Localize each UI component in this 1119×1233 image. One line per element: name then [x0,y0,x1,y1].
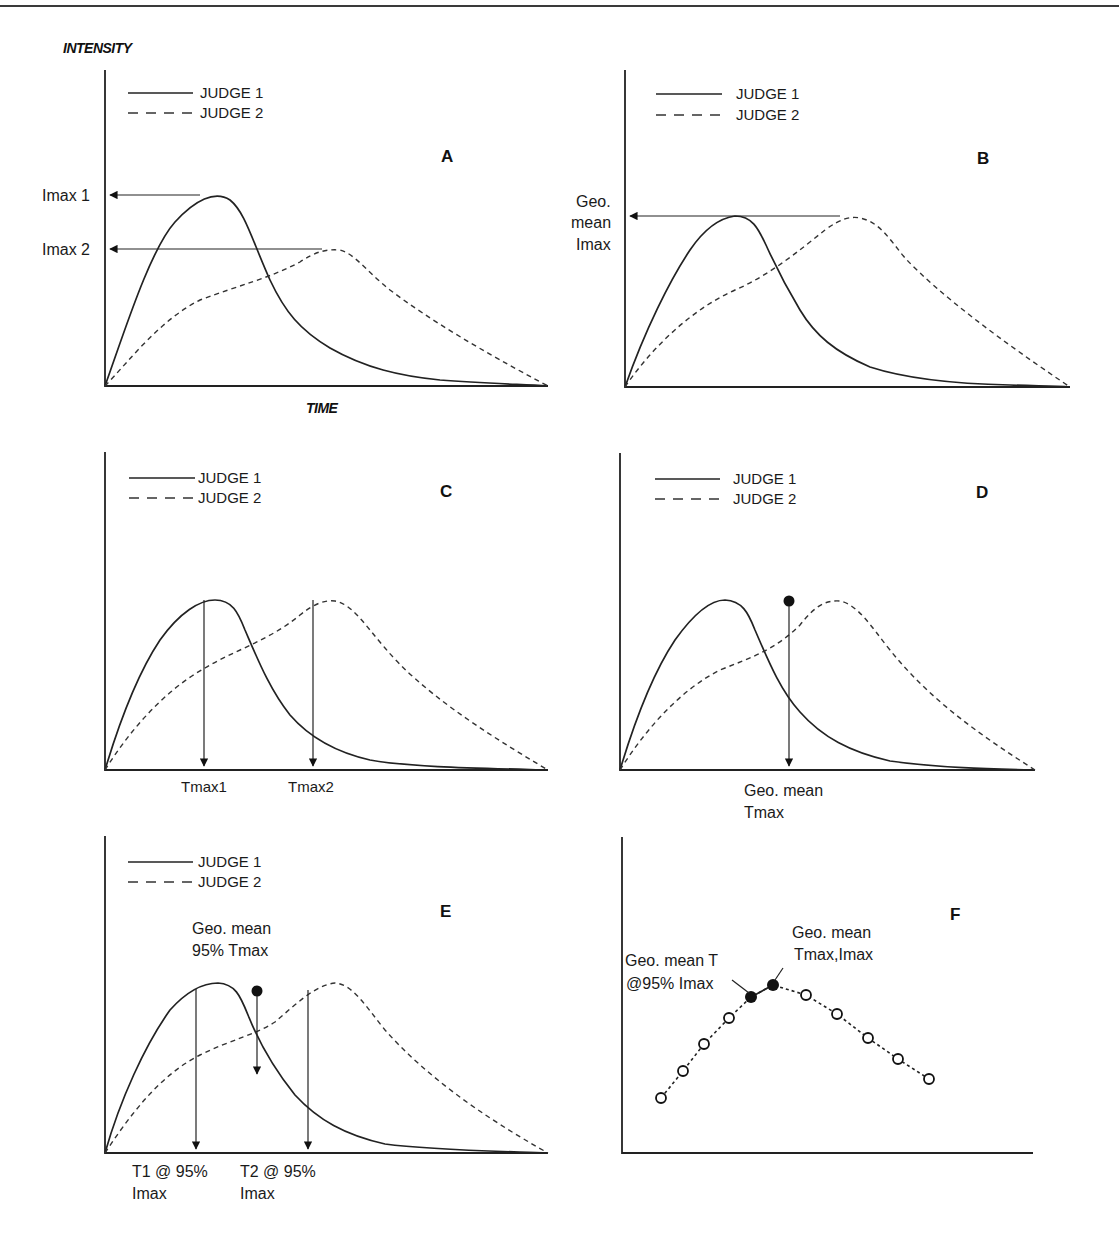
panel-f-axes [622,837,1033,1153]
geo-mean-tmax-imax-label-2: Tmax,Imax [794,946,873,963]
geo-mean-95-label-1: Geo. mean [192,920,271,937]
panel-a-legend: JUDGE 1 JUDGE 2 [128,84,263,121]
right-leader-line [775,968,783,980]
legend-judge2: JUDGE 2 [736,106,799,123]
geo-mean-t95-label-1: Geo. mean T [625,952,718,969]
t1-95-label-1: T1 @ 95% [132,1163,208,1180]
panel-c: JUDGE 1 JUDGE 2 C Tmax1 Tmax2 [105,452,548,795]
geo-mean-t95-label-2: @95% Imax [626,975,713,992]
geo-mean-tmax-imax-label-1: Geo. mean [792,924,871,941]
legend-judge2: JUDGE 2 [200,104,263,121]
geo-mean-tmax-imax-dot [767,979,779,991]
tmax2-label: Tmax2 [288,778,334,795]
geo-mean-imax-label-1: Geo. [576,193,611,210]
panel-a-axes [105,70,548,386]
left-leader-line [732,980,749,993]
geo-mean-t95-dot [745,991,757,1003]
f-open-points [656,990,934,1103]
panel-b-axes [625,70,1070,387]
panel-c-axes [105,452,548,770]
t1-95-label-2: Imax [132,1185,167,1202]
t2-95-label-2: Imax [240,1185,275,1202]
geo-mean-95-dot [252,986,263,997]
x-axis-title: TIME [306,400,339,416]
judge1-curve [105,983,548,1153]
judge1-curve [625,216,1070,387]
figure-canvas: INTENSITY JUDGE 1 JUDGE 2 A Imax 1 Imax … [0,0,1119,1233]
legend-judge1: JUDGE 1 [736,85,799,102]
y-axis-title: INTENSITY [63,40,134,56]
imax1-label: Imax 1 [42,187,90,204]
geo-mean-tmax-dot [784,596,795,607]
panel-letter-f: F [950,905,960,924]
panel-c-legend: JUDGE 1 JUDGE 2 [129,469,261,506]
legend-judge1: JUDGE 1 [198,469,261,486]
panel-letter-e: E [440,902,451,921]
legend-judge1: JUDGE 1 [200,84,263,101]
panel-letter-d: D [976,483,988,502]
panel-b-legend: JUDGE 1 JUDGE 2 [656,85,799,123]
panel-d: JUDGE 1 JUDGE 2 D Geo. mean Tmax [620,453,1035,821]
geo-mean-tmax-label-1: Geo. mean [744,782,823,799]
legend-judge1: JUDGE 1 [198,853,261,870]
geo-mean-tmax-label-2: Tmax [744,804,784,821]
judge1-curve [105,600,548,770]
panel-letter-a: A [441,147,453,166]
panel-e: JUDGE 1 JUDGE 2 E Geo. mean 95% Tmax T1 … [105,836,548,1202]
geo-mean-95-label-2: 95% Tmax [192,942,268,959]
judge2-curve [625,217,1070,387]
panel-a: INTENSITY JUDGE 1 JUDGE 2 A Imax 1 Imax … [42,40,548,416]
imax2-label: Imax 2 [42,241,90,258]
panel-b: JUDGE 1 JUDGE 2 B Geo. mean Imax [571,70,1070,387]
geo-mean-imax-label-3: Imax [576,236,611,253]
panel-e-axes [105,836,548,1153]
panel-d-legend: JUDGE 1 JUDGE 2 [655,470,796,507]
judge1-curve [620,600,1035,770]
panel-letter-b: B [977,149,989,168]
panel-letter-c: C [440,482,452,501]
judge1-curve [105,196,548,386]
legend-judge2: JUDGE 2 [198,873,261,890]
panel-f: F Geo. mean T @95% Imax Geo. mean Tmax,I… [622,837,1033,1153]
geo-mean-imax-label-2: mean [571,214,611,231]
legend-judge1: JUDGE 1 [733,470,796,487]
legend-judge2: JUDGE 2 [733,490,796,507]
tmax1-label: Tmax1 [181,778,227,795]
panel-e-legend: JUDGE 1 JUDGE 2 [128,853,261,890]
t2-95-label-1: T2 @ 95% [240,1163,316,1180]
legend-judge2: JUDGE 2 [198,489,261,506]
panel-d-axes [620,453,1035,770]
judge2-curve [620,601,1035,770]
judge2-curve [105,250,548,386]
